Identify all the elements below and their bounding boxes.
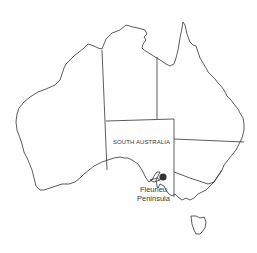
place-label-line1: Fleurieu: [137, 185, 170, 194]
location-marker-icon: [159, 173, 166, 180]
state-label-south-australia: SOUTH AUSTRALIA: [113, 139, 170, 145]
border-wa: [102, 50, 107, 170]
place-label-fleurieu-peninsula: Fleurieu Peninsula: [137, 185, 170, 203]
border-sa-top: [106, 119, 174, 121]
border-nsw-qld: [174, 139, 244, 142]
australia-map: [0, 0, 257, 253]
border-vic-nsw: [174, 170, 222, 184]
place-label-line2: Peninsula: [137, 194, 170, 203]
tasmania-outline: [191, 216, 206, 234]
mainland-outline: [16, 22, 244, 200]
